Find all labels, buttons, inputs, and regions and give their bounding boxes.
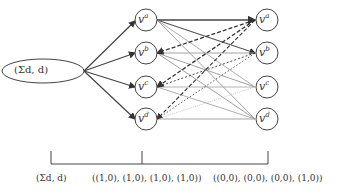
stage1-label: ((1,0), (1,0), (1,0), (1,0)): [92, 173, 202, 183]
source-node-label: (Σd, d): [14, 64, 48, 75]
stage2-label: ((0,0), (0,0), (0,0), (1,0)): [213, 173, 323, 183]
l2-node-c: vc: [259, 79, 269, 93]
l2-node-a: va: [259, 12, 269, 26]
source-edges: [84, 21, 135, 119]
stage0-label: (Σd, d): [36, 173, 67, 183]
l2-node-b: vb: [259, 45, 270, 59]
l1-node-c: vc: [138, 79, 148, 93]
l2-node-d: vd: [259, 111, 270, 125]
l1-node-d: vd: [138, 111, 149, 125]
diagram-canvas: [0, 0, 338, 193]
l1-node-a: va: [138, 12, 148, 26]
l1-node-b: vb: [138, 45, 149, 59]
timeline-bracket: [51, 151, 268, 164]
